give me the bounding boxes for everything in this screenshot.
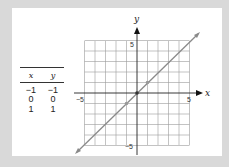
x-axis-label: x xyxy=(205,88,210,98)
x-axis-arrow-icon xyxy=(196,90,203,96)
y-max-tick-label: 5 xyxy=(130,41,134,48)
point-1-1 xyxy=(146,81,150,85)
point-neg1-neg1 xyxy=(125,102,129,106)
y-min-tick-label: −5 xyxy=(125,143,133,150)
x-max-tick-label: 5 xyxy=(187,96,191,103)
y-axis-label: y xyxy=(133,14,140,24)
x-min-tick-label: −5 xyxy=(76,96,84,103)
coordinate-graph: y x −5 5 5 −5 xyxy=(0,0,229,167)
point-origin xyxy=(135,91,139,95)
y-axis-arrow-icon xyxy=(134,27,140,34)
